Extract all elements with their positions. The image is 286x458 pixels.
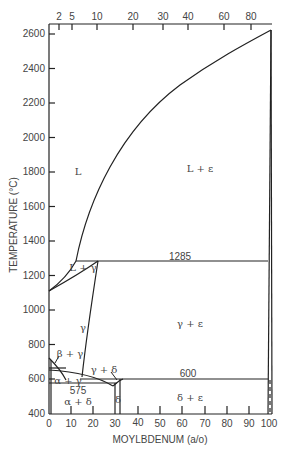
y-tick-1600: 1600	[23, 201, 46, 212]
label-alpha-delta: α + δ	[64, 396, 92, 407]
label-L-eps: L + ε	[187, 163, 214, 174]
label-delta: δ	[115, 394, 121, 405]
y-tick-600: 600	[28, 373, 45, 384]
top-tick-30: 30	[157, 11, 169, 22]
y-axis-ticks	[49, 34, 55, 379]
phase-diagram: 2 5 10 20 30 40 60 80 2600 2400 2200 200…	[0, 0, 286, 458]
x-tick-30: 30	[109, 418, 121, 429]
top-tick-40: 40	[182, 11, 194, 22]
label-gamma-delta: γ + δ	[91, 364, 118, 375]
label-gamma: γ	[80, 322, 86, 333]
top-axis	[59, 24, 251, 30]
x-tick-90: 90	[243, 418, 255, 429]
x-axis-title: MOYLBDENUM (a/o)	[112, 434, 207, 445]
y-tick-1400: 1400	[23, 235, 46, 246]
y-tick-2200: 2200	[23, 97, 46, 108]
x-axis-labels: 0 10 20 30 40 50 60 70 80 90 100	[46, 417, 278, 429]
x-tick-60: 60	[176, 418, 188, 429]
x-tick-50: 50	[154, 418, 166, 429]
label-L-gam: L + γ	[69, 262, 96, 273]
y-axis-title: TEMPERATURE (°C)	[8, 177, 19, 272]
x-tick-20: 20	[87, 418, 99, 429]
x-tick-80: 80	[221, 418, 233, 429]
label-delta-eps: δ + ε	[177, 392, 203, 403]
y-tick-1000: 1000	[23, 304, 46, 315]
top-tick-20: 20	[127, 11, 139, 22]
y-tick-1200: 1200	[23, 270, 46, 281]
label-beta-gam: β + γ	[57, 348, 84, 359]
x-axis-ticks	[71, 406, 249, 414]
label-600: 600	[180, 368, 197, 379]
x-tick-10: 10	[65, 418, 77, 429]
x-tick-0: 0	[46, 418, 52, 429]
label-575: 575	[70, 385, 87, 396]
x-tick-40: 40	[132, 417, 144, 428]
top-tick-80: 80	[245, 11, 257, 22]
y-tick-2600: 2600	[23, 28, 46, 39]
label-gamma-eps: γ + ε	[177, 318, 203, 329]
y-tick-800: 800	[28, 339, 45, 350]
x-tick-100: 100	[261, 418, 278, 429]
y-tick-1800: 1800	[23, 166, 46, 177]
top-tick-10: 10	[91, 11, 103, 22]
label-L: L	[75, 166, 82, 177]
x-tick-70: 70	[199, 418, 211, 429]
y-tick-2000: 2000	[23, 132, 46, 143]
top-axis-labels: 2 5 10 20 30 40 60 80	[56, 11, 257, 22]
top-tick-5: 5	[69, 11, 75, 22]
top-tick-60: 60	[218, 11, 230, 22]
y-tick-2400: 2400	[23, 63, 46, 74]
phase-labels: L L + ε L + γ 1285 γ γ + ε β + γ γ + δ α…	[54, 163, 213, 407]
top-tick-2: 2	[56, 11, 62, 22]
y-tick-400: 400	[28, 408, 45, 419]
label-1285: 1285	[169, 251, 192, 262]
y-axis-labels: 2600 2400 2200 2000 1800 1600 1400 1200 …	[23, 28, 46, 419]
